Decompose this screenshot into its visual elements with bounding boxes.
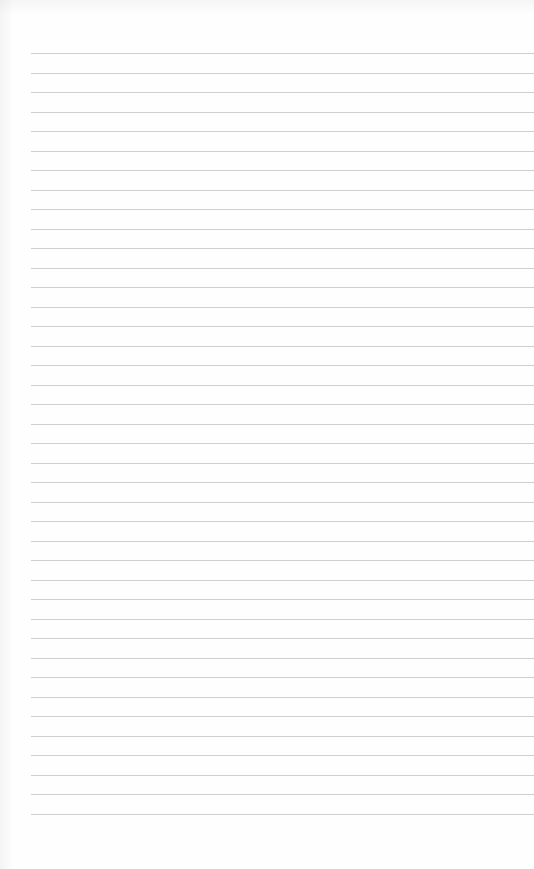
ruled-line [31,248,534,249]
ruled-line [31,502,534,503]
ruled-line [31,287,534,288]
ruled-line [31,385,534,386]
ruled-line [31,619,534,620]
ruled-line [31,814,534,815]
ruled-line [31,170,534,171]
top-edge-shadow [0,0,534,14]
ruled-line [31,755,534,756]
ruled-line [31,229,534,230]
ruled-line [31,697,534,698]
ruled-line [31,131,534,132]
ruled-line [31,346,534,347]
ruled-line [31,736,534,737]
ruled-line [31,794,534,795]
ruled-line [31,658,534,659]
ruled-line [31,638,534,639]
ruled-line [31,326,534,327]
ruled-line [31,560,534,561]
lined-paper-sheet [0,0,534,869]
ruled-line [31,677,534,678]
left-edge-shadow [0,0,14,869]
ruled-line [31,716,534,717]
ruled-line [31,53,534,54]
ruled-line [31,307,534,308]
ruled-line [31,92,534,93]
ruled-line [31,580,534,581]
ruled-line [31,365,534,366]
ruled-line [31,424,534,425]
ruled-line [31,268,534,269]
ruled-line [31,73,534,74]
ruled-line [31,190,534,191]
ruled-line [31,541,534,542]
ruled-line [31,151,534,152]
ruled-line [31,482,534,483]
ruled-line [31,112,534,113]
ruled-line [31,404,534,405]
ruled-line [31,521,534,522]
ruled-line [31,463,534,464]
ruled-line [31,443,534,444]
ruled-line [31,599,534,600]
ruled-line [31,775,534,776]
ruled-line [31,209,534,210]
